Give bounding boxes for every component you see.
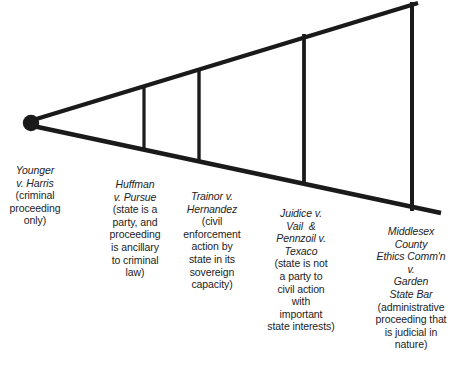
stage-case-name: Huffman v. Pursue xyxy=(100,178,170,203)
stage-case-description: (state is not a party to civil action wi… xyxy=(257,257,345,333)
stage-label-younger: Younger v. Harris (criminal proceeding o… xyxy=(1,164,69,227)
stage-case-name: Juidice v. Vail & Pennzoil v. Texaco xyxy=(257,207,345,257)
stage-case-description: (administrative proceeding that is judic… xyxy=(364,301,458,351)
stage-case-name: Trainor v. Hernandez xyxy=(172,190,252,215)
stage-case-description: (civil enforcement action by state in it… xyxy=(172,215,252,291)
stage-case-name: Middlesex County Ethics Comm'n v. Garden… xyxy=(364,225,458,301)
stage-label-middlesex: Middlesex County Ethics Comm'n v. Garden… xyxy=(364,225,458,351)
funnel-diagram-page: Younger v. Harris (criminal proceeding o… xyxy=(0,0,459,382)
funnel-upper-edge xyxy=(33,3,418,120)
stage-case-name: Younger v. Harris xyxy=(1,164,69,189)
stage-case-description: (criminal proceeding only) xyxy=(1,189,69,227)
stage-label-trainor: Trainor v. Hernandez (civil enforcement … xyxy=(172,190,252,291)
stage-label-juidice: Juidice v. Vail & Pennzoil v. Texaco (st… xyxy=(257,207,345,333)
stage-label-huffman: Huffman v. Pursue (state is a party, and… xyxy=(100,178,170,279)
apex-origin-dot xyxy=(23,115,39,131)
stage-case-description: (state is a party, and proceeding is anc… xyxy=(100,203,170,279)
